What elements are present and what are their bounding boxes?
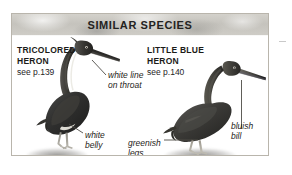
- margin-tick-mark: [279, 41, 286, 42]
- panel-header-band: SIMILAR SPECIES: [12, 14, 268, 36]
- figure-page: SIMILAR SPECIES: [0, 0, 292, 175]
- species-block-little-blue-heron: LITTLE BLUE HERON see p.140: [147, 45, 204, 78]
- panel-title: SIMILAR SPECIES: [12, 14, 268, 36]
- species-name-tricolored-heron: TRICOLORED HERON: [17, 45, 76, 66]
- callout-greenish-legs: greenish legs: [128, 138, 161, 156]
- callout-white-belly: white belly: [85, 130, 105, 150]
- little-blue-heron-shadow: [164, 148, 236, 156]
- leader-white-line-on-throat: [92, 60, 106, 75]
- species-name-little-blue-heron: LITTLE BLUE HERON: [147, 45, 204, 66]
- callout-white-line-on-throat: white line on throat: [108, 70, 143, 90]
- leader-white-belly: [69, 124, 83, 133]
- panel-body: TRICOLORED HERON see p.139 LITTLE BLUE H…: [12, 36, 268, 155]
- tricolored-heron-shadow: [26, 148, 88, 156]
- species-block-tricolored-heron: TRICOLORED HERON see p.139: [17, 45, 76, 78]
- similar-species-panel: SIMILAR SPECIES: [11, 13, 269, 156]
- callout-bluish-bill: bluish bill: [231, 121, 253, 141]
- species-page-ref-little-blue-heron[interactable]: see p.140: [147, 67, 204, 78]
- species-page-ref-tricolored-heron[interactable]: see p.139: [17, 67, 76, 78]
